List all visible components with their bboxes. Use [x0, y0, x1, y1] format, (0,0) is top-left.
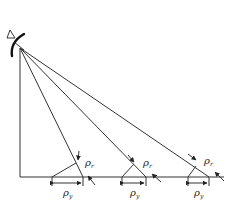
rho-y-label: ρy — [129, 187, 140, 200]
ray-1 — [20, 48, 83, 177]
rho-r-label: ρr — [142, 157, 153, 169]
rho-r-label: ρr — [84, 157, 95, 169]
ray-2 — [20, 48, 146, 177]
ray-3 — [20, 48, 209, 177]
rho-y-label: ρy — [62, 187, 73, 200]
rho-y-label: ρy — [193, 187, 204, 200]
slant-range-ground-range-diagram: ρr ρy ρr ρy ρr ρy — [0, 0, 232, 210]
rho-r-label: ρr — [203, 155, 214, 167]
